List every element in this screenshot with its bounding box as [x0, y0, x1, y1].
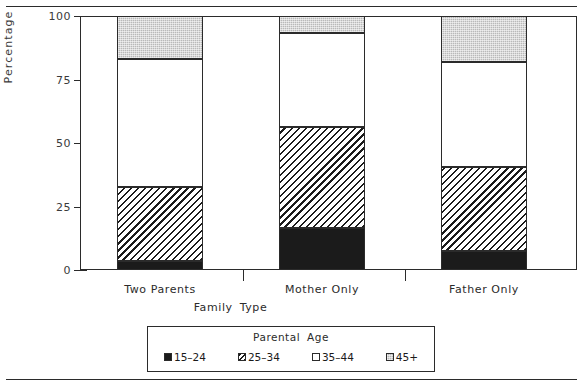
- bar-father-only[interactable]: [441, 16, 527, 270]
- x-category-label-two-parents: Two Parents: [100, 283, 220, 296]
- legend-swatch-gray-icon: [386, 353, 394, 361]
- bar-segment-45plus[interactable]: [279, 16, 365, 33]
- chart-figure: Percentage 100 75 50 25 0 Two Parents Mo…: [0, 0, 583, 387]
- x-axis-title-word-1: Family: [194, 301, 233, 314]
- legend-item-25-34[interactable]: 25–34: [238, 351, 280, 363]
- y-tick-label-25: 25: [31, 201, 71, 214]
- x-axis-title-word-2: Type: [240, 301, 268, 314]
- y-tick-label-75: 75: [31, 74, 71, 87]
- bar-mother-only[interactable]: [279, 16, 365, 270]
- bar-segment-15-24[interactable]: [441, 251, 527, 270]
- legend-label-25-34: 25–34: [248, 351, 280, 363]
- bar-segment-45plus[interactable]: [441, 16, 527, 62]
- bar-segment-35-44[interactable]: [279, 33, 365, 127]
- bar-segment-25-34[interactable]: [279, 127, 365, 228]
- legend-label-15-24: 15–24: [174, 351, 206, 363]
- bar-segment-15-24[interactable]: [279, 228, 365, 270]
- legend-swatch-black-icon: [164, 353, 172, 361]
- y-tick-label-0: 0: [31, 264, 71, 277]
- y-axis-title: Percentage: [2, 0, 18, 112]
- x-tick-separator-2: [405, 270, 406, 281]
- legend-title: ParentalAge: [148, 331, 434, 343]
- bar-two-parents[interactable]: [117, 16, 203, 270]
- legend-swatch-white-icon: [312, 353, 320, 361]
- y-tick-0: [74, 270, 87, 271]
- bar-segment-25-34[interactable]: [441, 167, 527, 251]
- legend-title-word-2: Age: [307, 331, 329, 343]
- bar-segment-35-44[interactable]: [441, 62, 527, 167]
- bottom-rule: [6, 379, 577, 380]
- legend-item-45plus[interactable]: 45+: [386, 351, 418, 363]
- y-tick-label-100: 100: [31, 10, 71, 23]
- top-rule: [6, 6, 577, 7]
- legend: ParentalAge 15–24 25–34 35–44 45+: [147, 326, 435, 372]
- legend-label-35-44: 35–44: [322, 351, 354, 363]
- legend-swatch-hatch-icon: [238, 353, 246, 361]
- y-tick-label-50: 50: [31, 137, 71, 150]
- x-tick-separator-1: [243, 270, 244, 281]
- legend-item-35-44[interactable]: 35–44: [312, 351, 354, 363]
- x-category-label-mother-only: Mother Only: [262, 283, 382, 296]
- x-axis-title: FamilyType: [0, 301, 522, 314]
- legend-item-15-24[interactable]: 15–24: [164, 351, 206, 363]
- legend-items: 15–24 25–34 35–44 45+: [148, 351, 434, 363]
- bar-segment-45plus[interactable]: [117, 16, 203, 59]
- x-category-label-father-only: Father Only: [424, 283, 544, 296]
- bar-segment-15-24[interactable]: [117, 261, 203, 270]
- legend-title-word-1: Parental: [253, 331, 300, 343]
- bar-segment-25-34[interactable]: [117, 187, 203, 261]
- legend-label-45plus: 45+: [396, 351, 418, 363]
- bar-segment-35-44[interactable]: [117, 59, 203, 187]
